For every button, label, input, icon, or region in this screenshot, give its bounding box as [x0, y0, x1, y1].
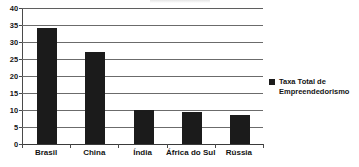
bars-group [23, 8, 263, 144]
bar-áfrica-do-sul [182, 112, 202, 144]
gridline-0 [22, 144, 263, 145]
legend-color-swatch [269, 79, 275, 85]
bar-índia [134, 110, 154, 144]
y-tick-label-25: 25 [10, 55, 18, 64]
x-label-áfrica-do-sul: África do Sul [166, 148, 215, 157]
plot-area: 4035302520151050 [22, 8, 263, 144]
bar-brasil [37, 28, 57, 144]
y-tick-mark-10 [19, 110, 22, 111]
bar-chart-figure: 4035302520151050 BrasilChinaÍndiaÁfrica … [0, 0, 359, 167]
x-tick-mark-5 [263, 144, 264, 148]
y-tick-label-30: 30 [10, 38, 18, 47]
y-tick-mark-5 [19, 127, 22, 128]
y-tick-label-35: 35 [10, 21, 18, 30]
y-tick-label-40: 40 [10, 4, 18, 13]
y-tick-label-20: 20 [10, 72, 18, 81]
y-tick-label-5: 5 [14, 123, 18, 132]
chart-legend: Taxa Total de Empreendedorismo [269, 77, 357, 97]
bar-china [85, 52, 105, 144]
x-label-brasil: Brasil [35, 148, 57, 157]
bar-rússia [230, 115, 250, 144]
y-tick-mark-20 [19, 76, 22, 77]
x-label-china: China [83, 148, 105, 157]
cropped-title-remnant [150, 0, 210, 3]
y-tick-mark-40 [19, 8, 22, 9]
x-label-índia: Índia [133, 148, 152, 157]
legend-series-label: Taxa Total de Empreendedorismo [279, 77, 355, 97]
y-tick-mark-35 [19, 25, 22, 26]
x-axis-category-labels: BrasilChinaÍndiaÁfrica do SulRússia [22, 148, 263, 164]
y-tick-mark-15 [19, 93, 22, 94]
x-label-rússia: Rússia [226, 148, 252, 157]
y-tick-label-15: 15 [10, 89, 18, 98]
y-tick-mark-25 [19, 59, 22, 60]
y-tick-label-10: 10 [10, 106, 18, 115]
y-tick-mark-30 [19, 42, 22, 43]
y-tick-label-0: 0 [14, 140, 18, 149]
